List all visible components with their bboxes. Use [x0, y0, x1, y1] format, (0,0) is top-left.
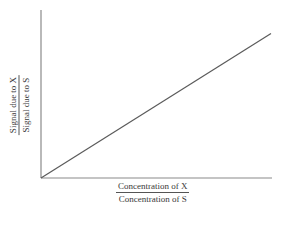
x-axis-label: Concentration of X Concentration of S — [116, 181, 189, 204]
y-axis-label: Signal due to X Signal due to S — [2, 60, 36, 150]
x-label-denominator: Concentration of S — [116, 193, 189, 204]
y-label-numerator: Signal due to X — [8, 75, 20, 135]
y-label-denominator: Signal due to S — [20, 75, 31, 135]
x-label-numerator: Concentration of X — [116, 181, 189, 193]
data-line — [41, 34, 271, 178]
